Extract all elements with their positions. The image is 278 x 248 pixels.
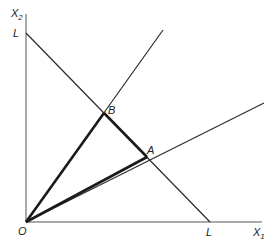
l-label-y-axis: L <box>13 27 19 39</box>
segment-oa <box>26 157 147 222</box>
segment-ob <box>26 113 104 222</box>
l-label-x-axis: L <box>206 226 212 238</box>
point-a-label: A <box>146 144 154 156</box>
x2-axis-label: X2 <box>10 7 23 22</box>
x1-axis-label: X1 <box>252 226 265 241</box>
segment-ba <box>104 113 147 157</box>
origin-label: O <box>18 225 27 237</box>
constraint-diagram: X2 X1 L L O B A <box>0 0 278 248</box>
point-b-label: B <box>108 104 115 116</box>
